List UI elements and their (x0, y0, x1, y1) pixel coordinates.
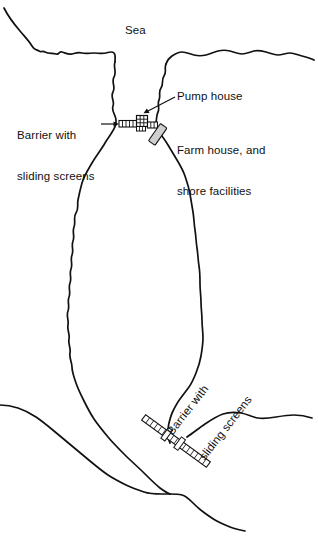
coastline-northeast (166, 50, 314, 64)
label-barrier-with-sliding-screens-north: Barrier with sliding screens (17, 102, 95, 211)
label-farm-house-line1: Farm house, and (177, 144, 265, 158)
label-farm-house-and-shore-facilities: Farm house, and shore facilities (177, 117, 265, 226)
north-barrier-west-band (119, 121, 137, 128)
label-barrier-bottom-line2: sliding screens (197, 393, 255, 462)
map-drawing (0, 0, 318, 543)
coastline-northwest (4, 8, 115, 62)
label-barrier-top-line1: Barrier with (17, 129, 95, 143)
north-barrier-structure (119, 116, 158, 132)
north-barrier-screen-lower (137, 127, 146, 132)
north-barrier-east-band (148, 122, 158, 128)
label-pump-house: Pump house (177, 90, 243, 104)
coastal-lagoon-diagram: Sea Barrier with sliding screens Pump ho… (0, 0, 318, 543)
label-barrier-top-line2: sliding screens (17, 170, 95, 184)
coastline-south-shore (170, 494, 245, 531)
pump-house-block (137, 116, 148, 127)
label-farm-house-line2: shore facilities (177, 185, 265, 199)
label-barrier-bottom-line1: Barrier with (165, 368, 223, 437)
label-sea: Sea (125, 24, 146, 38)
